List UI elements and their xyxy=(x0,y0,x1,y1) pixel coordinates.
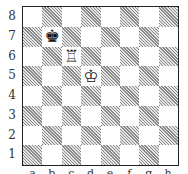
square-c3[interactable] xyxy=(62,106,81,126)
square-f2[interactable] xyxy=(120,126,139,146)
square-a3[interactable] xyxy=(23,106,42,126)
file-label-d: d xyxy=(81,168,100,174)
square-h6[interactable] xyxy=(159,47,178,67)
square-e8[interactable] xyxy=(101,7,120,27)
square-a8[interactable] xyxy=(23,7,42,27)
square-c6[interactable]: ♖ xyxy=(62,47,81,67)
square-c2[interactable] xyxy=(62,126,81,146)
square-e4[interactable] xyxy=(101,86,120,106)
square-d8[interactable] xyxy=(81,7,100,27)
square-b2[interactable] xyxy=(42,126,61,146)
square-d4[interactable] xyxy=(81,86,100,106)
rank-label-1: 1 xyxy=(6,145,18,164)
square-b6[interactable] xyxy=(42,47,61,67)
square-d1[interactable] xyxy=(81,145,100,165)
square-e2[interactable] xyxy=(101,126,120,146)
square-e6[interactable] xyxy=(101,47,120,67)
square-g7[interactable] xyxy=(139,27,158,47)
file-label-c: c xyxy=(62,168,81,174)
square-f5[interactable] xyxy=(120,66,139,86)
square-g5[interactable] xyxy=(139,66,158,86)
white-rook-icon[interactable]: ♖ xyxy=(64,48,79,65)
square-a2[interactable] xyxy=(23,126,42,146)
square-h5[interactable] xyxy=(159,66,178,86)
rank-label-4: 4 xyxy=(6,86,18,105)
square-b1[interactable] xyxy=(42,145,61,165)
square-f7[interactable] xyxy=(120,27,139,47)
white-king-icon[interactable]: ♔ xyxy=(83,68,98,85)
square-f6[interactable] xyxy=(120,47,139,67)
file-label-h: h xyxy=(159,168,178,174)
square-e3[interactable] xyxy=(101,106,120,126)
square-g3[interactable] xyxy=(139,106,158,126)
square-g6[interactable] xyxy=(139,47,158,67)
rank-label-3: 3 xyxy=(6,106,18,125)
square-a5[interactable] xyxy=(23,66,42,86)
square-f4[interactable] xyxy=(120,86,139,106)
square-h2[interactable] xyxy=(159,126,178,146)
rank-label-7: 7 xyxy=(6,27,18,46)
file-label-f: f xyxy=(120,168,139,174)
rank-label-5: 5 xyxy=(6,66,18,85)
square-h4[interactable] xyxy=(159,86,178,106)
square-h8[interactable] xyxy=(159,7,178,27)
square-a6[interactable] xyxy=(23,47,42,67)
square-a1[interactable] xyxy=(23,145,42,165)
black-king-icon[interactable]: ♚ xyxy=(44,28,59,45)
file-label-g: g xyxy=(139,168,158,174)
square-e5[interactable] xyxy=(101,66,120,86)
square-g4[interactable] xyxy=(139,86,158,106)
square-g2[interactable] xyxy=(139,126,158,146)
square-e1[interactable] xyxy=(101,145,120,165)
square-f8[interactable] xyxy=(120,7,139,27)
square-d6[interactable] xyxy=(81,47,100,67)
square-b5[interactable] xyxy=(42,66,61,86)
file-label-e: e xyxy=(101,168,120,174)
square-d3[interactable] xyxy=(81,106,100,126)
square-h3[interactable] xyxy=(159,106,178,126)
square-f3[interactable] xyxy=(120,106,139,126)
square-c8[interactable] xyxy=(62,7,81,27)
chess-board[interactable]: ♚♖♔ xyxy=(22,6,179,166)
square-g8[interactable] xyxy=(139,7,158,27)
square-c5[interactable] xyxy=(62,66,81,86)
file-label-b: b xyxy=(42,168,61,174)
square-d5[interactable]: ♔ xyxy=(81,66,100,86)
square-b3[interactable] xyxy=(42,106,61,126)
square-c7[interactable] xyxy=(62,27,81,47)
file-label-a: a xyxy=(23,168,42,174)
square-g1[interactable] xyxy=(139,145,158,165)
rank-label-8: 8 xyxy=(6,7,18,26)
square-h7[interactable] xyxy=(159,27,178,47)
square-b7[interactable]: ♚ xyxy=(42,27,61,47)
square-h1[interactable] xyxy=(159,145,178,165)
square-e7[interactable] xyxy=(101,27,120,47)
square-c1[interactable] xyxy=(62,145,81,165)
square-c4[interactable] xyxy=(62,86,81,106)
square-a7[interactable] xyxy=(23,27,42,47)
square-d7[interactable] xyxy=(81,27,100,47)
square-b4[interactable] xyxy=(42,86,61,106)
square-d2[interactable] xyxy=(81,126,100,146)
square-f1[interactable] xyxy=(120,145,139,165)
square-b8[interactable] xyxy=(42,7,61,27)
rank-label-6: 6 xyxy=(6,47,18,66)
square-a4[interactable] xyxy=(23,86,42,106)
rank-label-2: 2 xyxy=(6,126,18,145)
